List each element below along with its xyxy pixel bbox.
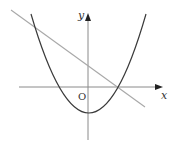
origin-label: O: [78, 91, 86, 102]
y-axis-arrow-icon: [85, 13, 91, 21]
y-axis-label: y: [77, 9, 85, 22]
x-axis: [19, 84, 163, 90]
coordinate-graph: y x O: [0, 0, 172, 148]
y-axis: [85, 13, 91, 140]
x-axis-label: x: [161, 89, 168, 102]
